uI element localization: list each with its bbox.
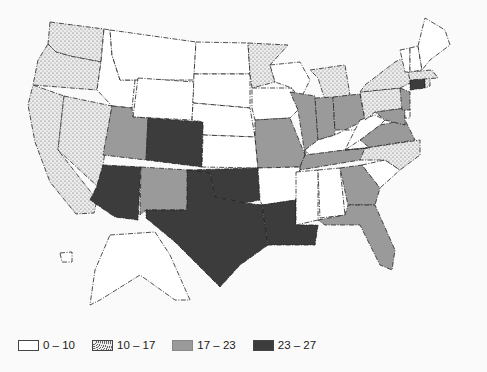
state-hi xyxy=(60,252,72,262)
legend-item-0-10: 0 – 10 xyxy=(18,339,75,351)
legend-label: 0 – 10 xyxy=(43,339,75,351)
legend-swatch-stippled xyxy=(92,340,113,351)
state-nm xyxy=(140,167,188,215)
state-ri xyxy=(425,78,430,88)
state-ks xyxy=(202,135,258,168)
state-me xyxy=(418,18,450,70)
state-ar xyxy=(258,167,300,205)
legend-item-10-17: 10 – 17 xyxy=(92,339,155,351)
state-nd xyxy=(194,42,250,74)
state-ak xyxy=(90,232,190,305)
legend-swatch-dark xyxy=(253,340,274,351)
legend-item-17-23: 17 – 23 xyxy=(172,339,235,351)
legend: 0 – 10 10 – 17 17 – 23 23 – 27 xyxy=(18,339,333,351)
legend-swatch-gray xyxy=(172,340,193,351)
legend-swatch-white xyxy=(18,340,39,351)
state-sd xyxy=(193,74,250,108)
state-mt xyxy=(110,30,196,80)
us-choropleth-map xyxy=(0,0,487,330)
legend-label: 23 – 27 xyxy=(278,339,316,351)
state-ms xyxy=(296,170,318,225)
state-mi xyxy=(310,65,350,100)
state-nj xyxy=(400,88,410,110)
legend-label: 10 – 17 xyxy=(117,339,155,351)
state-co xyxy=(146,118,203,167)
legend-label: 17 – 23 xyxy=(197,339,235,351)
state-al xyxy=(318,168,345,218)
state-wy xyxy=(133,78,194,120)
legend-item-23-27: 23 – 27 xyxy=(253,339,316,351)
state-mo xyxy=(255,118,305,168)
state-in xyxy=(315,97,335,140)
